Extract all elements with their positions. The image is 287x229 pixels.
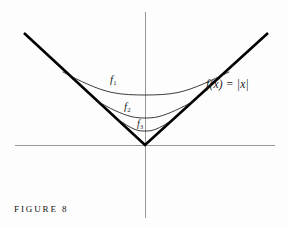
curve-label-f3-subscript: 3: [140, 123, 143, 130]
curve-label-f2: f2: [124, 101, 131, 114]
main-function-label: f(x) = |x|: [206, 79, 249, 91]
figure-8-container: f1 f2 f3 f(x) = |x| FIGURE 8: [0, 0, 287, 229]
curve-label-f2-subscript: 2: [127, 106, 131, 113]
curve-label-f3: f3: [137, 119, 143, 130]
curve-label-f1: f1: [110, 74, 117, 87]
plot-canvas: [0, 0, 287, 229]
figure-caption: FIGURE 8: [14, 204, 68, 214]
curve-label-f1-subscript: 1: [113, 79, 117, 86]
